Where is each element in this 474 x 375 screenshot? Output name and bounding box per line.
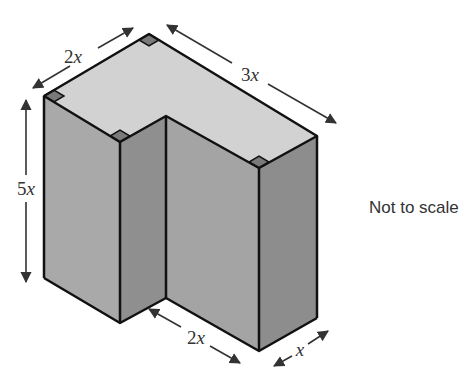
arrow-2x-top-b: [98, 28, 133, 48]
right-side-face: [259, 136, 317, 351]
not-to-scale-note: Not to scale: [369, 198, 459, 218]
inner-face: [120, 116, 166, 323]
arrow-x-a: [274, 356, 292, 366]
label-2x-bottom: 2x: [187, 327, 206, 348]
l-shaped-prism-diagram: 2x 3x 5x 2x x: [0, 0, 474, 375]
label-3x: 3x: [241, 64, 260, 85]
label-2x-top: 2x: [64, 46, 83, 67]
label-x: x: [295, 339, 305, 360]
arrow-2x-bottom-a: [149, 309, 181, 327]
arrow-2x-bottom-b: [210, 346, 240, 363]
label-5x: 5x: [17, 178, 36, 199]
arrow-x-b: [308, 331, 328, 344]
